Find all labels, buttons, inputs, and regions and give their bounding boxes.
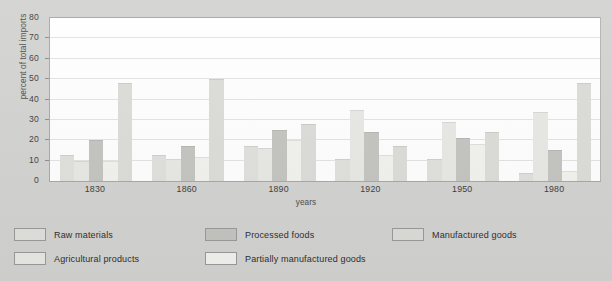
bar [485, 132, 499, 181]
bar-chart: percent of total imports 010203040506070… [0, 0, 612, 215]
y-axis-tick-label: 50 [5, 73, 39, 83]
bar-groups [50, 18, 601, 181]
bar [103, 161, 117, 181]
bar [442, 122, 456, 181]
bar [209, 79, 223, 181]
y-axis: 01020304050607080 [0, 17, 49, 181]
bar [470, 144, 484, 181]
bar [166, 159, 180, 181]
legend-swatch [392, 228, 424, 241]
bar [548, 150, 562, 181]
bar-group [142, 18, 234, 181]
bar [258, 148, 272, 181]
legend-label: Processed foods [245, 230, 314, 240]
legend-item: Manufactured goods [392, 228, 517, 241]
bar [301, 124, 315, 181]
x-axis-tick-label: 1980 [544, 184, 564, 194]
x-axis-tick-label: 1830 [85, 184, 105, 194]
bar [350, 110, 364, 181]
legend-item: Agricultural products [14, 252, 139, 265]
legend-item: Partially manufactured goods [205, 252, 366, 265]
y-axis-tick-label: 30 [5, 114, 39, 124]
bar [244, 146, 258, 181]
bar [60, 155, 74, 181]
plot-area [49, 17, 601, 182]
legend-item: Processed foods [205, 228, 314, 241]
legend-item: Raw materials [14, 228, 113, 241]
bar [181, 146, 195, 181]
bar [577, 83, 591, 181]
legend-label: Raw materials [54, 230, 113, 240]
legend-label: Partially manufactured goods [245, 254, 366, 264]
bar [74, 161, 88, 181]
y-axis-tick-label: 0 [5, 175, 39, 185]
x-axis-title: years [0, 198, 612, 207]
plot-right-border [600, 17, 601, 181]
bar [195, 157, 209, 181]
legend-label: Manufactured goods [432, 230, 517, 240]
bar-group [234, 18, 326, 181]
y-axis-tick-label: 80 [5, 12, 39, 22]
bar [335, 159, 349, 181]
bar [364, 132, 378, 181]
bar [287, 140, 301, 181]
bar [519, 173, 533, 181]
bar [562, 171, 576, 181]
bar [533, 112, 547, 181]
x-axis-tick-label: 1890 [268, 184, 288, 194]
bar-group [326, 18, 418, 181]
bar [118, 83, 132, 181]
chart-page: percent of total imports 010203040506070… [0, 0, 612, 281]
bar [152, 155, 166, 181]
bar-group [50, 18, 142, 181]
x-axis-tick-label: 1860 [177, 184, 197, 194]
bar [427, 159, 441, 181]
bar [272, 130, 286, 181]
bar [89, 140, 103, 181]
bar [379, 155, 393, 181]
bar [456, 138, 470, 181]
y-axis-tick-label: 60 [5, 53, 39, 63]
chart-legend: Raw materialsAgricultural productsProces… [0, 224, 612, 281]
x-axis-tick-label: 1950 [452, 184, 472, 194]
legend-label: Agricultural products [54, 254, 139, 264]
y-axis-tick-label: 20 [5, 134, 39, 144]
bar-group [417, 18, 509, 181]
legend-swatch [205, 252, 237, 265]
bar [393, 146, 407, 181]
legend-swatch [14, 252, 46, 265]
y-axis-tick-label: 70 [5, 32, 39, 42]
bar-group [509, 18, 601, 181]
y-axis-tick-label: 40 [5, 94, 39, 104]
legend-swatch [205, 228, 237, 241]
y-axis-tick-label: 10 [5, 155, 39, 165]
x-axis-tick-label: 1920 [360, 184, 380, 194]
legend-swatch [14, 228, 46, 241]
